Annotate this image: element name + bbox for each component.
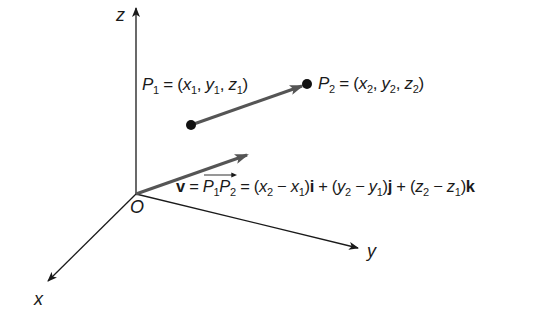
eq-z1: z [447, 177, 455, 195]
p1-eq: = ( [159, 75, 183, 94]
eq-y1: y [369, 177, 377, 195]
comma: , [396, 74, 405, 93]
eq-y2: y [337, 177, 345, 195]
diagram-canvas [0, 0, 537, 320]
vector-p1p2-notation: P1P2 [203, 178, 236, 195]
point-p2 [302, 79, 312, 89]
eq-p2: P [219, 177, 230, 195]
vector-equation: v = P1P2 = (x2 − x1)i + (y2 − y1)j + (z2… [176, 178, 475, 195]
p2-z: z [405, 74, 413, 93]
comma: , [220, 75, 229, 94]
x-axis [48, 194, 136, 281]
p2-name: P [318, 74, 329, 93]
x-axis-label: x [34, 290, 43, 308]
eq-plus: + ( [392, 177, 415, 195]
p2-close: ) [419, 74, 424, 93]
eq-sign: = [185, 177, 203, 195]
eq-minus: − [273, 177, 291, 195]
y-axis-label: y [367, 242, 376, 260]
z-axis-label: z [116, 6, 125, 24]
origin-label: O [130, 198, 144, 216]
eq-minus: − [351, 177, 369, 195]
vector-diagram: z y x O P1 = (x1, y1, z1) P2 = (x2, y2, … [0, 0, 537, 320]
y-axis [136, 194, 358, 248]
eq-x1: x [291, 177, 299, 195]
eq-p2-sub: 2 [230, 186, 236, 198]
comma: , [197, 75, 206, 94]
eq-x2: x [259, 177, 267, 195]
eq-open: = ( [236, 177, 259, 195]
eq-z2: z [415, 177, 423, 195]
p1-name: P [142, 75, 153, 94]
p2-x: x [359, 74, 367, 93]
point-p1-label: P1 = (x1, y1, z1) [142, 76, 248, 93]
unit-k: k [466, 177, 475, 195]
p1-close: ) [243, 75, 248, 94]
eq-p1: P [203, 177, 214, 195]
vector-v-symbol: v [176, 177, 185, 195]
p1-z: z [229, 75, 237, 94]
point-p1 [186, 120, 196, 130]
comma: , [373, 74, 382, 93]
point-p2-label: P2 = (x2, y2, z2) [318, 75, 424, 92]
eq-minus: − [429, 177, 447, 195]
p1-x: x [183, 75, 191, 94]
p2-eq: = ( [335, 74, 359, 93]
p1-y: y [206, 75, 214, 94]
overline-arrow-icon [204, 172, 237, 178]
eq-plus: + ( [314, 177, 337, 195]
p2-y: y [382, 74, 390, 93]
